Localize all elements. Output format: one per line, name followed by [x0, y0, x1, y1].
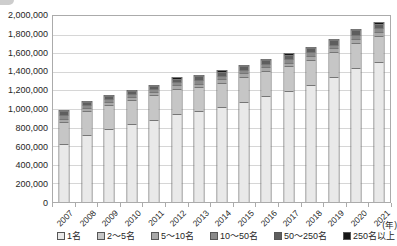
bar-segment-2〜5名 [217, 83, 226, 107]
bar-2010 [126, 90, 137, 202]
x-axis-category-label: 2020 [349, 208, 369, 228]
x-axis-category-label: 2007 [55, 208, 75, 228]
bar-2011 [149, 85, 160, 202]
bar-2014 [216, 70, 227, 202]
gridline [53, 35, 390, 36]
bar-segment-2〜5名 [60, 122, 69, 144]
y-axis-tick-label: 600,000 [15, 142, 48, 152]
bar-segment-1名 [239, 102, 248, 202]
x-axis-category-label: 2019 [326, 208, 346, 228]
bar-2013 [194, 75, 205, 202]
legend-swatch-icon [343, 232, 351, 240]
bar-segment-2〜5名 [352, 43, 361, 68]
legend-swatch-icon [274, 232, 282, 240]
x-axis-category-label: 2008 [77, 208, 97, 228]
y-axis-tick-label: 1,600,000 [8, 48, 48, 58]
bar-segment-1名 [150, 120, 159, 202]
bar-2012 [171, 77, 182, 202]
legend-item-label: 5〜10名 [161, 231, 194, 242]
bar-segment-1名 [262, 96, 271, 202]
x-axis-category-label: 2015 [236, 208, 256, 228]
bar-2021 [373, 22, 384, 202]
legend-item-10〜50名: 10〜50名 [210, 231, 258, 242]
x-axis-category-label: 2010 [123, 208, 143, 228]
legend-item-50〜250名: 50〜250名 [274, 231, 327, 242]
bar-segment-1名 [127, 124, 136, 202]
legend-swatch-icon [97, 232, 105, 240]
bar-segment-2〜5名 [195, 87, 204, 111]
x-axis-category-label: 2014 [213, 208, 233, 228]
legend-item-label: 50〜250名 [284, 231, 327, 242]
bar-segment-2〜5名 [374, 36, 383, 62]
bar-segment-2〜5名 [127, 100, 136, 124]
bar-segment-2〜5名 [150, 95, 159, 120]
bar-2009 [104, 95, 115, 202]
y-axis-tick-label: 1,000,000 [8, 104, 48, 114]
legend-swatch-icon [210, 232, 218, 240]
bar-segment-2〜5名 [329, 52, 338, 78]
bar-segment-1名 [105, 129, 114, 202]
legend-item-250名以上: 250名以上 [343, 231, 395, 242]
bar-segment-2〜5名 [307, 60, 316, 86]
x-axis-category-label: 2009 [100, 208, 120, 228]
x-axis-category-label: 2013 [190, 208, 210, 228]
legend-item-1名: 1名 [57, 231, 81, 242]
bar-segment-1名 [82, 135, 91, 202]
bar-segment-1名 [284, 91, 293, 202]
x-axis-category-label: 2016 [258, 208, 278, 228]
y-axis-tick-label: 400,000 [15, 160, 48, 170]
x-axis-category-label: 2018 [303, 208, 323, 228]
bar-segment-1名 [172, 114, 181, 202]
legend-item-5〜10名: 5〜10名 [151, 231, 194, 242]
plot-area [52, 15, 391, 203]
bar-2016 [261, 59, 272, 202]
bar-segment-1名 [195, 111, 204, 202]
bar-segment-1名 [307, 85, 316, 202]
legend-swatch-icon [151, 232, 159, 240]
gridline [53, 53, 390, 54]
legend-item-label: 1名 [67, 231, 81, 242]
y-axis-tick-label: 200,000 [15, 179, 48, 189]
y-axis-tick-label: 0 [43, 198, 48, 208]
y-axis-tick-label: 1,200,000 [8, 85, 48, 95]
y-axis-tick-label: 2,000,000 [8, 10, 48, 20]
bar-segment-1名 [329, 77, 338, 202]
legend-swatch-icon [57, 232, 65, 240]
bar-segment-2〜5名 [284, 66, 293, 91]
bar-segment-1名 [60, 144, 69, 202]
bar-segment-1名 [352, 68, 361, 202]
bar-segment-1名 [374, 62, 383, 202]
cropped-corner-artifact [0, 0, 14, 5]
bar-2008 [81, 101, 92, 202]
bar-segment-2〜5名 [239, 77, 248, 102]
bar-segment-2〜5名 [262, 71, 271, 96]
bar-segment-2〜5名 [172, 89, 181, 114]
y-axis: 0200,000400,000600,000800,0001,000,0001,… [0, 15, 48, 203]
y-axis-tick-label: 800,000 [15, 123, 48, 133]
bar-2018 [306, 47, 317, 202]
bar-2019 [328, 39, 339, 202]
bar-segment-2〜5名 [105, 105, 114, 129]
x-axis-category-label: 2011 [146, 208, 166, 228]
y-axis-tick-label: 1,800,000 [8, 29, 48, 39]
bar-segment-2〜5名 [82, 111, 91, 135]
y-axis-tick-label: 1,400,000 [8, 66, 48, 76]
chart-figure: 0200,000400,000600,000800,0001,000,0001,… [0, 0, 397, 246]
legend-item-label: 2〜5名 [107, 231, 135, 242]
x-axis-category-label: 2017 [281, 208, 301, 228]
x-axis-category-label: 2012 [168, 208, 188, 228]
legend-item-label: 10〜50名 [220, 231, 258, 242]
legend-item-label: 250名以上 [353, 231, 395, 242]
legend: 1名2〜5名5〜10名10〜50名50〜250名250名以上 [57, 229, 395, 243]
legend-item-2〜5名: 2〜5名 [97, 231, 135, 242]
bar-2015 [238, 65, 249, 202]
bar-2007 [59, 110, 70, 202]
bar-2020 [351, 29, 362, 202]
bar-2017 [283, 53, 294, 202]
bar-segment-1名 [217, 107, 226, 202]
